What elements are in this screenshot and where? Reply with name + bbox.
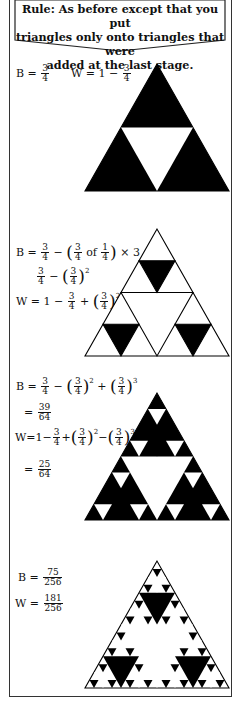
rule-line-1: Rule: As before except that you put	[14, 2, 226, 30]
stage3-b-result: = 3964	[24, 403, 52, 422]
triangle-stage-3	[84, 391, 232, 523]
stage4-w: W = 181256	[15, 594, 64, 613]
stage3-w-result: = 2564	[24, 460, 52, 479]
triangle-stage-2	[84, 227, 232, 361]
rule-line-2: triangles only onto triangles that were	[14, 30, 226, 58]
triangle-stage-4	[84, 559, 232, 693]
fraction: 34	[41, 64, 49, 83]
stage2-b-line2: 34 − (34)2	[36, 267, 89, 286]
rule-banner: Rule: As before except that you put tria…	[14, 0, 226, 56]
b-label: B =	[16, 67, 37, 80]
triangle-stage-1	[84, 62, 232, 194]
stage4-b: B = 75256	[18, 568, 63, 587]
